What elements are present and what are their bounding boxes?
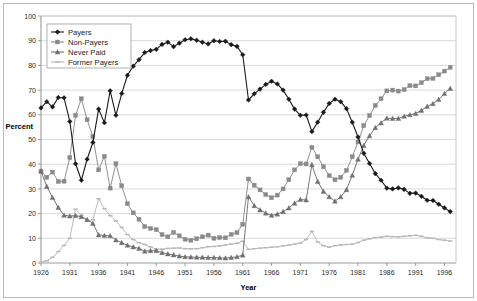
data-point-marker	[390, 187, 395, 192]
data-point-marker	[223, 39, 228, 44]
data-point-marker	[114, 162, 118, 166]
y-tick-label: 50	[28, 136, 36, 143]
data-point-marker	[85, 157, 90, 162]
data-point-marker	[241, 222, 245, 226]
data-point-marker	[396, 89, 400, 93]
data-point-marker	[183, 237, 187, 241]
legend-item-label: Never Paid	[68, 48, 106, 57]
x-tick-label: 1971	[293, 269, 309, 276]
data-point-marker	[125, 202, 129, 206]
data-point-marker	[229, 232, 233, 236]
data-point-marker	[263, 211, 268, 215]
y-tick-label: 0	[32, 260, 36, 267]
data-point-marker	[287, 178, 291, 182]
data-point-marker	[212, 236, 216, 240]
data-point-marker	[252, 183, 256, 187]
data-point-marker	[270, 196, 274, 200]
data-point-marker	[344, 168, 348, 172]
series-line	[41, 88, 450, 258]
data-point-marker	[235, 231, 239, 235]
series-non-payers	[39, 65, 452, 242]
data-point-marker	[293, 168, 297, 172]
x-axis-title: Year	[241, 283, 257, 292]
data-point-marker	[143, 224, 147, 228]
data-point-marker	[79, 178, 84, 183]
data-point-marker	[442, 69, 446, 73]
data-point-marker	[183, 37, 188, 42]
data-point-marker	[102, 154, 106, 158]
data-point-marker	[385, 89, 389, 93]
x-tick-label: 1996	[437, 269, 453, 276]
data-point-marker	[229, 42, 234, 47]
y-axis-title: Percent	[5, 122, 33, 131]
y-tick-label: 90	[28, 37, 36, 44]
data-point-marker	[310, 145, 314, 149]
data-point-marker	[223, 236, 227, 240]
data-point-marker	[125, 243, 130, 247]
data-point-marker	[172, 230, 176, 234]
data-point-marker	[131, 211, 135, 215]
chart-container: 0102030405060708090100192619311936194119…	[0, 0, 477, 301]
data-point-marker	[367, 161, 372, 166]
data-point-marker	[97, 168, 101, 172]
data-point-marker	[304, 162, 308, 166]
data-point-marker	[45, 175, 49, 179]
data-point-marker	[217, 39, 222, 44]
x-tick-label: 1976	[321, 269, 337, 276]
data-point-marker	[200, 235, 204, 239]
data-point-marker	[327, 174, 331, 178]
y-tick-label: 60	[28, 111, 36, 118]
data-point-marker	[408, 84, 412, 88]
x-tick-label: 1946	[148, 269, 164, 276]
data-point-marker	[339, 175, 343, 179]
data-point-marker	[212, 38, 217, 43]
data-point-marker	[281, 209, 286, 213]
data-point-marker	[68, 156, 72, 160]
data-point-marker	[333, 178, 337, 182]
data-point-marker	[304, 113, 309, 118]
data-point-marker	[206, 42, 211, 47]
data-point-marker	[120, 184, 124, 188]
data-point-marker	[373, 103, 377, 107]
x-tick-label: 1986	[379, 269, 395, 276]
data-point-marker	[119, 240, 124, 244]
y-tick-label: 70	[28, 87, 36, 94]
data-point-marker	[108, 186, 112, 190]
data-point-marker	[448, 65, 452, 69]
x-tick-label: 1966	[264, 269, 280, 276]
line-chart: 0102030405060708090100192619311936194119…	[0, 0, 477, 301]
data-point-marker	[247, 177, 251, 181]
data-point-marker	[102, 120, 107, 125]
data-point-marker	[218, 236, 222, 240]
data-point-marker	[350, 120, 355, 125]
data-point-marker	[396, 186, 401, 191]
data-point-marker	[68, 119, 73, 124]
data-point-marker	[44, 184, 49, 188]
data-point-marker	[160, 233, 164, 237]
data-point-marker	[74, 113, 78, 117]
data-point-marker	[275, 193, 279, 197]
x-tick-label: 1926	[33, 269, 49, 276]
data-point-marker	[361, 143, 366, 147]
data-point-marker	[361, 151, 366, 156]
data-point-marker	[379, 97, 383, 101]
data-point-marker	[62, 95, 67, 100]
x-tick-label: 1936	[91, 269, 107, 276]
data-point-marker	[177, 41, 182, 46]
data-point-marker	[56, 40, 60, 44]
data-point-marker	[73, 161, 78, 166]
data-point-marker	[258, 188, 262, 192]
data-point-marker	[195, 237, 199, 241]
y-tick-label: 30	[28, 186, 36, 193]
data-point-marker	[264, 193, 268, 197]
data-point-marker	[315, 179, 320, 183]
data-point-marker	[413, 111, 418, 115]
data-point-marker	[391, 88, 395, 92]
y-tick-label: 80	[28, 62, 36, 69]
data-point-marker	[108, 89, 113, 94]
data-point-marker	[206, 233, 210, 237]
data-point-marker	[344, 187, 349, 191]
data-point-marker	[356, 157, 361, 161]
data-point-marker	[189, 238, 193, 242]
data-point-marker	[298, 162, 302, 166]
